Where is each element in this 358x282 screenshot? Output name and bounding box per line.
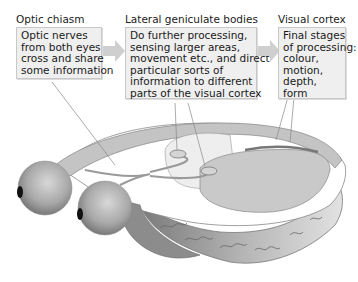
box-line: form — [283, 88, 341, 100]
stage-title-optic-chiasm: Optic chiasm — [16, 13, 85, 25]
stage-title-visual-cortex: Visual cortex — [278, 13, 346, 25]
left-eyeball — [17, 161, 72, 215]
arrow-right-icon — [258, 40, 280, 62]
box-line: colour, — [283, 53, 341, 65]
box-line: Final stages — [283, 30, 341, 42]
arrow-right-icon — [103, 40, 125, 62]
right-eyeball — [77, 181, 132, 235]
stage-box-optic-chiasm: Optic nerves from both eyes cross and sh… — [16, 27, 102, 79]
box-line: some information — [21, 65, 97, 77]
box-line: movement etc., and direct — [130, 53, 252, 65]
stage-title-lateral-geniculate: Lateral geniculate bodies — [125, 13, 258, 25]
box-line: Do further processing, — [130, 30, 252, 42]
stage-box-visual-cortex: Final stages of processing: colour, moti… — [278, 27, 346, 99]
box-line: depth, — [283, 76, 341, 88]
box-line: cross and share — [21, 53, 97, 65]
box-line: Optic nerves — [21, 30, 97, 42]
stage-box-lateral-geniculate: Do further processing, sensing larger ar… — [125, 27, 257, 99]
box-line: information to different — [130, 76, 252, 88]
box-line: parts of the visual cortex — [130, 88, 252, 100]
